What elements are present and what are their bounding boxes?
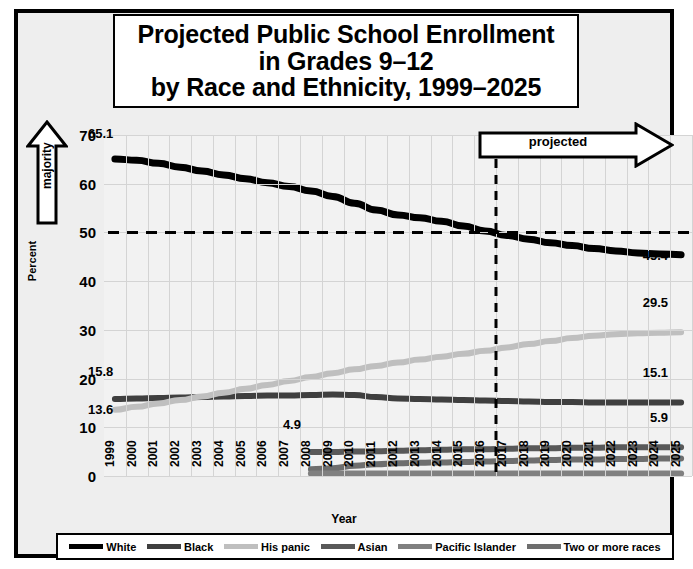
x-axis-label: Year [0, 512, 688, 526]
legend-swatch-icon [321, 544, 355, 549]
legend-swatch-icon [398, 544, 432, 549]
title-line-2: in Grades 9–12 [258, 48, 433, 75]
legend-item[interactable]: Pacific Islander [398, 541, 516, 553]
reference-lines [104, 135, 692, 476]
data-label-white-start: 65.1 [88, 126, 113, 141]
x-axis-tick-label: 1999 [103, 440, 117, 467]
x-axis-tick-label: 2007 [277, 440, 291, 467]
x-axis-tick-label: 2003 [190, 440, 204, 467]
projected-label: projected [478, 134, 638, 149]
legend-label: His panic [261, 541, 310, 553]
legend-item[interactable]: Asian [321, 541, 388, 553]
x-axis-tick-label: 2022 [604, 440, 618, 467]
y-axis-tick-label: 0 [88, 468, 96, 485]
legend-label: Pacific Islander [435, 541, 516, 553]
x-axis-tick-label: 2001 [146, 440, 160, 467]
x-axis-tick-label: 2018 [517, 440, 531, 467]
title-line-1: Projected Public School Enrollment [138, 21, 555, 48]
x-axis-tick-label: 2008 [299, 440, 313, 467]
data-label-white-end: 45.4 [643, 248, 668, 263]
data-label-asian-start: 4.9 [283, 417, 301, 432]
data-label-hispanic-start: 13.6 [88, 402, 113, 417]
majority-arrow: majority [26, 120, 68, 225]
x-axis-tick-label: 2021 [582, 440, 596, 467]
x-axis-tick-label: 2024 [647, 440, 661, 467]
x-axis-tick-label: 2000 [125, 440, 139, 467]
chart-legend: WhiteBlackHis panicAsianPacific Islander… [56, 533, 674, 560]
data-label-hispanic-end: 29.5 [643, 295, 668, 310]
y-axis-tick-label: 10 [79, 419, 96, 436]
majority-label: majority [40, 145, 54, 189]
x-axis-tick-label: 2025 [669, 440, 683, 467]
x-axis-tick-label: 2006 [255, 440, 269, 467]
legend-label: White [106, 541, 136, 553]
x-axis-tick-label: 2005 [234, 440, 248, 467]
legend-label: Two or more races [564, 541, 661, 553]
x-axis-tick-label: 2010 [342, 440, 356, 467]
x-axis-tick-label: 2012 [386, 440, 400, 467]
chart-title-box: Projected Public School Enrollment in Gr… [113, 14, 579, 108]
y-axis-label: Percent [26, 241, 38, 281]
legend-swatch-icon [69, 544, 103, 549]
horizontal-gridline [104, 476, 692, 477]
data-label-black-start: 15.8 [88, 364, 113, 379]
y-axis-tick-label: 60 [79, 175, 96, 192]
x-axis-tick-label: 2020 [560, 440, 574, 467]
legend-label: Black [184, 541, 213, 553]
x-axis-tick-label: 2009 [321, 440, 335, 467]
x-axis-tick-label: 2017 [495, 440, 509, 467]
x-axis-tick-label: 2023 [626, 440, 640, 467]
legend-item[interactable]: His panic [224, 541, 310, 553]
legend-item[interactable]: White [69, 541, 136, 553]
legend-item[interactable]: Two or more races [527, 541, 661, 553]
x-axis-tick-label: 2019 [538, 440, 552, 467]
projected-arrow: projected [478, 122, 674, 168]
x-axis-tick-label: 2004 [212, 440, 226, 467]
legend-swatch-icon [147, 544, 181, 549]
x-axis-tick-label: 2014 [430, 440, 444, 467]
legend-item[interactable]: Black [147, 541, 213, 553]
title-line-3: by Race and Ethnicity, 1999–2025 [151, 74, 542, 101]
y-axis-tick-label: 40 [79, 273, 96, 290]
legend-swatch-icon [527, 544, 561, 549]
y-axis-tick-label: 50 [79, 224, 96, 241]
x-axis-tick-label: 2015 [451, 440, 465, 467]
data-label-asian-end: 5.9 [650, 410, 668, 425]
x-axis-tick-label: 2016 [473, 440, 487, 467]
legend-label: Asian [358, 541, 388, 553]
legend-swatch-icon [224, 544, 258, 549]
plot-area [104, 135, 692, 476]
y-axis-tick-label: 30 [79, 321, 96, 338]
x-axis-tick-label: 2013 [408, 440, 422, 467]
x-axis-tick-label: 2002 [168, 440, 182, 467]
data-label-black-end: 15.1 [643, 365, 668, 380]
x-axis-tick-label: 2011 [364, 441, 378, 467]
